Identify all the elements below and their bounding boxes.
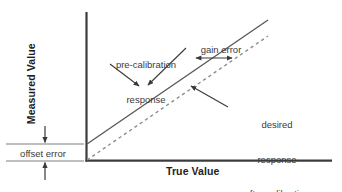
- gain-error-label: gain error: [190, 44, 252, 56]
- desired-response-label-line1: desired: [232, 119, 322, 131]
- desired-response-label-line2: response: [232, 154, 322, 166]
- x-axis-label: True Value: [166, 166, 220, 178]
- pre-calibration-response-label: pre-calibration response: [98, 36, 194, 128]
- desired-response-arrow: [191, 86, 228, 107]
- pre-calibration-response-label-line2: response: [98, 94, 194, 106]
- calibration-error-diagram: Measured Value True Value pre-calibratio…: [0, 0, 342, 192]
- desired-response-label: desired response after calibration: [232, 96, 322, 192]
- desired-response-label-line3: after calibration: [232, 188, 322, 192]
- desired-response-callout-arrow: [191, 86, 228, 107]
- pre-calibration-response-label-line1: pre-calibration: [98, 59, 194, 71]
- y-axis-label: Measured Value: [26, 29, 38, 139]
- offset-error-label: offset error: [10, 148, 76, 160]
